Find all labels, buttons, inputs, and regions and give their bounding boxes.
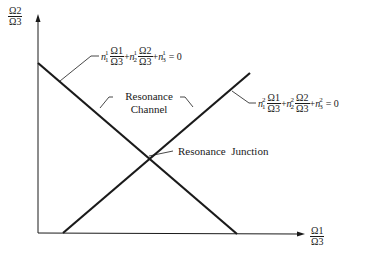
- resonance-channel-label-line2: Channel: [124, 104, 174, 115]
- y-axis-label-den: Ω3: [9, 17, 21, 27]
- eq2-equals: = 0: [326, 98, 339, 109]
- x-axis-arrow-icon: [297, 232, 305, 237]
- eq1-n1-sub: 1: [105, 57, 109, 64]
- x-axis-label-den: Ω3: [311, 237, 323, 247]
- equation-1: n11 Ω1Ω3 + n12 Ω2Ω3 + n13 = 0: [101, 46, 182, 67]
- eq1-n3-sub: 3: [162, 57, 166, 64]
- equation-2: n21 Ω1Ω3 + n22 Ω2Ω3 + n23 = 0: [258, 93, 339, 114]
- eq2-n2-sub: 2: [291, 104, 295, 111]
- x-axis: [38, 233, 298, 234]
- equation-1-leader: [60, 56, 99, 81]
- eq2-n1-sub: 1: [262, 104, 266, 111]
- eq2-frac2-den: Ω3: [296, 104, 308, 114]
- junction-leader: [149, 151, 173, 156]
- channel-leader-left: [100, 97, 113, 108]
- resonance-channel-label-line1: Resonance: [124, 91, 174, 102]
- resonance-junction-label: Resonance Junction: [178, 146, 268, 157]
- eq1-frac1-den: Ω3: [111, 57, 123, 67]
- eq2-n3-sub: 3: [319, 104, 323, 111]
- channel-leader-right: [180, 97, 193, 107]
- eq2-frac1-den: Ω3: [268, 104, 280, 114]
- y-axis-label: Ω2Ω3: [8, 6, 22, 27]
- x-axis-label: Ω1Ω3: [310, 226, 324, 247]
- equation-2-leader: [232, 91, 256, 103]
- diagram-canvas: [0, 0, 365, 261]
- resonance-channel-label: Resonance Channel: [124, 91, 174, 115]
- eq1-n2-sub: 2: [134, 57, 138, 64]
- eq1-equals: = 0: [169, 51, 182, 62]
- y-axis-arrow-icon: [36, 14, 41, 22]
- eq1-frac2-den: Ω3: [139, 57, 151, 67]
